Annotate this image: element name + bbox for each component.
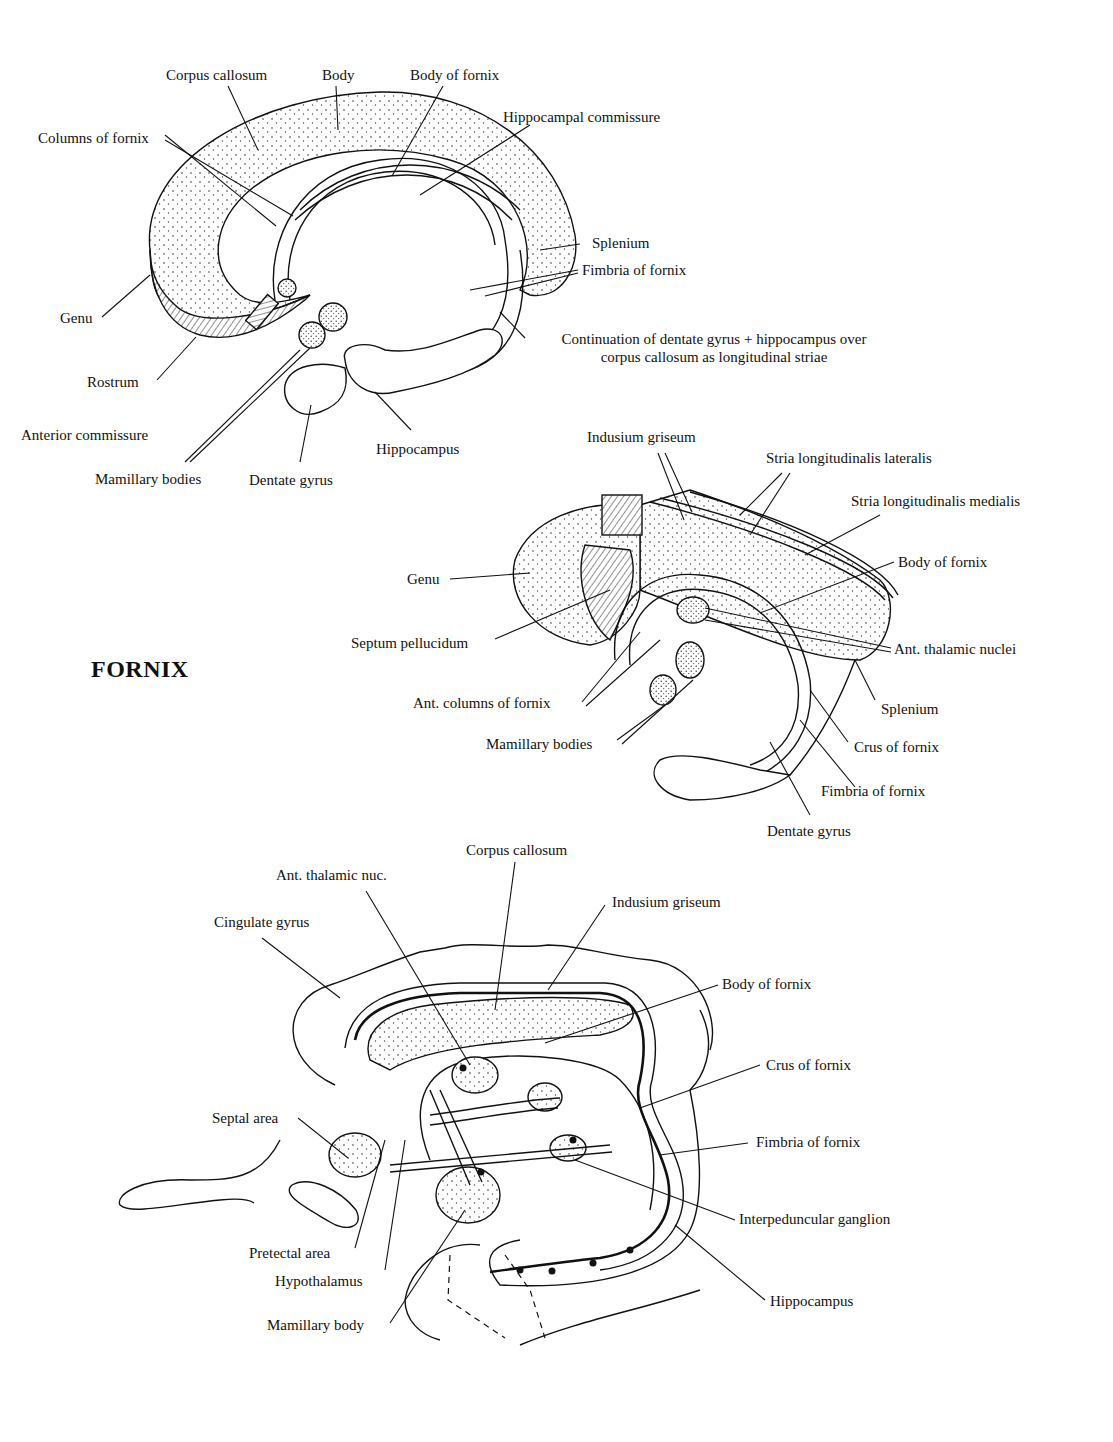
label-mamillary-bodies-2: Mamillary bodies xyxy=(486,735,592,753)
label-body-of-fornix-2: Body of fornix xyxy=(898,553,987,571)
septal-area-shape xyxy=(329,1133,381,1177)
dentate-gyrus-shape xyxy=(285,364,347,414)
label-ant-thalamic-nuclei: Ant. thalamic nuclei xyxy=(894,640,1016,658)
label-corpus-callosum: Corpus callosum xyxy=(166,66,267,84)
label-mamillary-body: Mamillary body xyxy=(267,1316,364,1334)
label-ant-columns-of-fornix: Ant. columns of fornix xyxy=(413,694,550,712)
label-hippocampal-commissure: Hippocampal commissure xyxy=(503,108,660,126)
hippocampus-shape-2 xyxy=(654,756,790,800)
label-continuation-line1: Continuation of dentate gyrus + hippocam… xyxy=(528,330,900,348)
label-septal-area: Septal area xyxy=(212,1109,278,1127)
mid-nucleus-shape xyxy=(528,1083,562,1111)
figure-connections-schematic xyxy=(119,945,712,1345)
label-stria-lateralis: Stria longitudinalis lateralis xyxy=(766,449,932,467)
corpus-callosum-band xyxy=(368,998,633,1071)
corpus-callosum-shape xyxy=(149,92,575,319)
label-crus-of-fornix-3: Crus of fornix xyxy=(766,1056,851,1074)
label-genu: Genu xyxy=(60,309,93,327)
label-rostrum: Rostrum xyxy=(87,373,139,391)
figure-medial-view xyxy=(149,92,575,414)
mamillary-bodies-shape xyxy=(676,642,704,678)
label-fimbria-of-fornix-2: Fimbria of fornix xyxy=(821,782,925,800)
label-fimbria-of-fornix-3: Fimbria of fornix xyxy=(756,1133,860,1151)
label-genu-2: Genu xyxy=(407,570,440,588)
label-fimbria-of-fornix: Fimbria of fornix xyxy=(582,261,686,279)
label-splenium: Splenium xyxy=(592,234,650,252)
hippocampus-outline xyxy=(490,1010,709,1286)
label-hippocampus: Hippocampus xyxy=(376,440,459,458)
label-indusium-griseum: Indusium griseum xyxy=(587,428,696,446)
blob-left xyxy=(119,1140,280,1209)
ant-thalamic-nuclei-shape xyxy=(677,597,709,623)
fornix-arch xyxy=(273,158,505,300)
label-splenium-2: Splenium xyxy=(881,700,939,718)
blob-middle xyxy=(289,1182,358,1228)
mamillary-body-shape-3 xyxy=(436,1167,500,1223)
ant-thalamic-nuc-shape xyxy=(452,1057,498,1093)
hippocampus-shape xyxy=(344,329,502,393)
label-interpeduncular-ganglion: Interpeduncular ganglion xyxy=(739,1210,890,1228)
label-pretectal-area: Pretectal area xyxy=(249,1244,330,1262)
mamillary-body-shape xyxy=(319,303,347,331)
label-dentate-gyrus: Dentate gyrus xyxy=(249,471,333,489)
label-columns-of-fornix: Columns of fornix xyxy=(38,129,149,147)
label-ant-thalamic-nuc: Ant. thalamic nuc. xyxy=(276,866,387,884)
label-anterior-commissure: Anterior commissure xyxy=(21,426,148,444)
label-hypothalamus: Hypothalamus xyxy=(275,1272,363,1290)
label-body-of-fornix-3: Body of fornix xyxy=(722,975,811,993)
label-dentate-gyrus-2: Dentate gyrus xyxy=(767,822,851,840)
label-cingulate-gyrus: Cingulate gyrus xyxy=(214,913,309,931)
label-corpus-callosum-3: Corpus callosum xyxy=(466,841,567,859)
label-hippocampus-3: Hippocampus xyxy=(770,1292,853,1310)
brainstem-outline xyxy=(405,1244,480,1340)
page-title: FORNIX xyxy=(91,656,189,683)
label-body-of-fornix: Body of fornix xyxy=(410,66,499,84)
label-mamillary-bodies: Mamillary bodies xyxy=(95,470,201,488)
fornix-illustration xyxy=(0,0,1113,1442)
label-crus-of-fornix: Crus of fornix xyxy=(854,738,939,756)
label-septum-pellucidum: Septum pellucidum xyxy=(351,634,468,652)
label-continuation-line2: corpus callosum as longitudinal striae xyxy=(528,348,900,366)
label-indusium-griseum-3: Indusium griseum xyxy=(612,893,721,911)
figure-connections-schematic-leaders xyxy=(262,862,765,1323)
label-stria-medialis: Stria longitudinalis medialis xyxy=(851,492,1020,510)
label-body: Body xyxy=(322,66,355,84)
label-continuation: Continuation of dentate gyrus + hippocam… xyxy=(528,330,900,366)
